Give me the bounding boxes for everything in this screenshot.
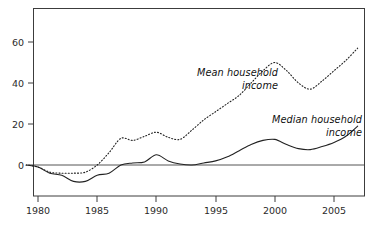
x-tick-label-2005: 2005 <box>322 205 346 216</box>
x-axis-ticks <box>38 196 334 202</box>
y-axis-labels: 0 20 40 60 <box>12 37 24 171</box>
annotation-mean-line1: Mean household <box>197 67 278 78</box>
annotation-median-household-income: Median household income <box>263 114 362 139</box>
plot-frame <box>34 9 365 197</box>
x-axis-labels: 1980 1985 1990 1995 2000 2005 <box>26 205 346 216</box>
x-tick-label-1985: 1985 <box>85 205 109 216</box>
annotation-median-line2: income <box>326 127 362 138</box>
y-tick-label-0: 0 <box>18 160 24 171</box>
annotation-median-line1: Median household <box>272 114 362 125</box>
x-tick-label-1990: 1990 <box>144 205 168 216</box>
y-tick-label-20: 20 <box>12 119 24 130</box>
annotation-mean-line2: income <box>242 80 278 91</box>
x-tick-label-2000: 2000 <box>263 205 287 216</box>
x-tick-label-1980: 1980 <box>26 205 50 216</box>
y-tick-label-40: 40 <box>12 78 24 89</box>
x-tick-label-1995: 1995 <box>204 205 228 216</box>
y-tick-label-60: 60 <box>12 37 24 48</box>
chart-container: 0 20 40 60 1980 1985 1990 1995 2000 2005 <box>0 0 379 228</box>
annotation-mean-household-income: Mean household income <box>186 67 278 92</box>
